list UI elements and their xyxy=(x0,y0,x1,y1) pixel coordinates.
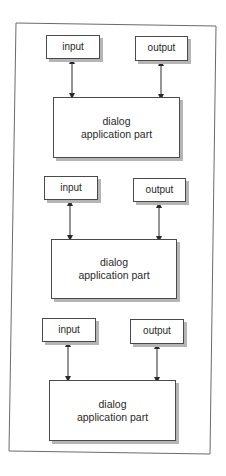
output-box-2: output xyxy=(133,178,186,202)
output-label-2: output xyxy=(146,184,174,195)
dialog-application-box-1: dialog application part xyxy=(53,97,180,158)
dialog-label-1: dialog xyxy=(102,115,130,128)
application-part-label-1: application part xyxy=(81,128,152,141)
input-box-1: input xyxy=(46,35,100,59)
input-label-1: input xyxy=(62,41,84,52)
input-label-3: input xyxy=(58,324,80,335)
output-box-1: output xyxy=(135,36,188,61)
input-box-2: input xyxy=(44,176,98,200)
output-box-3: output xyxy=(130,319,184,344)
dialog-label-3: dialog xyxy=(98,398,126,411)
input-box-3: input xyxy=(42,318,96,342)
dialog-application-box-3: dialog application part xyxy=(49,380,176,441)
application-part-label-3: application part xyxy=(77,411,148,424)
dialog-label-2: dialog xyxy=(100,256,128,269)
application-part-label-2: application part xyxy=(78,269,149,282)
input-label-2: input xyxy=(60,182,82,193)
output-label-1: output xyxy=(148,42,176,53)
output-label-3: output xyxy=(143,325,171,336)
dialog-application-box-2: dialog application part xyxy=(51,239,177,299)
